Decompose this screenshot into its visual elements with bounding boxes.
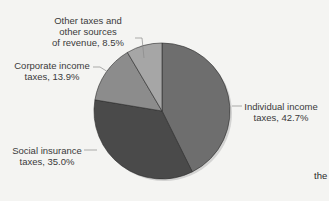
label-individual: Individual income taxes, 42.7% bbox=[242, 101, 320, 123]
background-text-fragment: the bbox=[314, 170, 327, 181]
leader-corporate bbox=[93, 67, 108, 72]
label-corporate: Corporate income taxes, 13.9% bbox=[12, 60, 92, 82]
label-social: Social insurance taxes, 35.0% bbox=[10, 145, 84, 167]
label-other: Other taxes and other sources of revenue… bbox=[52, 15, 124, 48]
pie-slices bbox=[94, 43, 230, 179]
